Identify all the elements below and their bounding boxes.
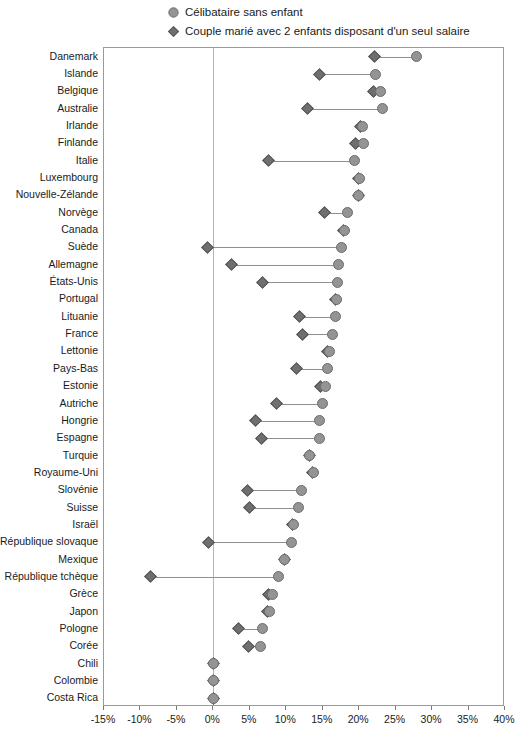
marker-celibataire[interactable] xyxy=(304,450,315,461)
legend-entry-couple-marie: Couple marié avec 2 enfants disposant d'… xyxy=(168,24,470,38)
marker-celibataire[interactable] xyxy=(377,103,388,114)
category-label: Nouvelle-Zélande xyxy=(0,188,98,200)
marker-celibataire[interactable] xyxy=(330,311,341,322)
x-axis-tick xyxy=(212,706,213,710)
connector-line xyxy=(208,247,342,248)
marker-celibataire[interactable] xyxy=(327,329,338,340)
category-label: Islande xyxy=(0,67,98,79)
marker-celibataire[interactable] xyxy=(308,467,319,478)
category-label: Israël xyxy=(0,518,98,530)
marker-celibataire[interactable] xyxy=(322,363,333,374)
marker-celibataire[interactable] xyxy=(336,242,347,253)
marker-celibataire[interactable] xyxy=(358,138,369,149)
marker-celibataire[interactable] xyxy=(296,485,307,496)
marker-celibataire[interactable] xyxy=(279,554,290,565)
x-axis-tick-label: 25% xyxy=(384,713,405,726)
x-axis-tick xyxy=(176,706,177,710)
zero-reference-line xyxy=(213,48,214,705)
marker-celibataire[interactable] xyxy=(357,121,368,132)
marker-celibataire[interactable] xyxy=(286,537,297,548)
x-axis-tick-label: 15% xyxy=(311,713,332,726)
marker-celibataire[interactable] xyxy=(257,623,268,634)
marker-couple-marie[interactable] xyxy=(256,276,269,289)
marker-couple-marie[interactable] xyxy=(290,362,303,375)
marker-couple-marie[interactable] xyxy=(270,397,283,410)
category-label: Allemagne xyxy=(0,258,98,270)
marker-couple-marie[interactable] xyxy=(255,432,268,445)
marker-couple-marie[interactable] xyxy=(144,571,157,584)
marker-celibataire[interactable] xyxy=(208,675,219,686)
marker-celibataire[interactable] xyxy=(264,606,275,617)
marker-celibataire[interactable] xyxy=(288,519,299,530)
x-axis-tick-label: 0% xyxy=(205,713,220,726)
category-label: Lituanie xyxy=(0,310,98,322)
connector-line xyxy=(374,57,416,58)
marker-couple-marie[interactable] xyxy=(225,258,238,271)
marker-celibataire[interactable] xyxy=(411,51,422,62)
marker-couple-marie[interactable] xyxy=(296,328,309,341)
connector-line xyxy=(269,161,355,162)
marker-couple-marie[interactable] xyxy=(201,241,214,254)
connector-line xyxy=(261,438,319,439)
connector-line xyxy=(256,421,320,422)
marker-celibataire[interactable] xyxy=(324,346,335,357)
marker-couple-marie[interactable] xyxy=(319,206,332,219)
category-label: Estonie xyxy=(0,379,98,391)
category-label: Autriche xyxy=(0,397,98,409)
x-axis-tick xyxy=(322,706,323,710)
category-label: Chili xyxy=(0,657,98,669)
marker-celibataire[interactable] xyxy=(320,381,331,392)
marker-celibataire[interactable] xyxy=(208,658,219,669)
marker-couple-marie[interactable] xyxy=(262,154,275,167)
category-label: Pays-Bas xyxy=(0,362,98,374)
plot-area xyxy=(103,47,504,706)
category-label: Lettonie xyxy=(0,344,98,356)
x-axis-tick xyxy=(431,706,432,710)
marker-couple-marie[interactable] xyxy=(301,102,314,115)
marker-couple-marie[interactable] xyxy=(313,68,326,81)
marker-couple-marie[interactable] xyxy=(368,50,381,63)
x-axis-tick-label: 20% xyxy=(348,713,369,726)
category-label: Costa Rica xyxy=(0,691,98,703)
category-label: Suède xyxy=(0,240,98,252)
category-label: Canada xyxy=(0,223,98,235)
marker-celibataire[interactable] xyxy=(273,571,284,582)
marker-celibataire[interactable] xyxy=(267,589,278,600)
x-axis-tick-label: -15% xyxy=(91,713,116,726)
connector-line xyxy=(249,508,299,509)
marker-couple-marie[interactable] xyxy=(241,484,254,497)
marker-celibataire[interactable] xyxy=(342,207,353,218)
marker-celibataire[interactable] xyxy=(354,173,365,184)
x-axis-tick-label: 5% xyxy=(241,713,256,726)
marker-celibataire[interactable] xyxy=(317,398,328,409)
marker-celibataire[interactable] xyxy=(208,693,219,704)
x-axis-tick-label: -5% xyxy=(167,713,186,726)
marker-celibataire[interactable] xyxy=(255,641,266,652)
marker-couple-marie[interactable] xyxy=(293,310,306,323)
marker-celibataire[interactable] xyxy=(293,502,304,513)
category-label: Hongrie xyxy=(0,414,98,426)
connector-line xyxy=(262,282,337,283)
dumbbell-chart: Célibataire sans enfant Couple marié ave… xyxy=(0,0,531,739)
marker-couple-marie[interactable] xyxy=(243,501,256,514)
x-axis-tick xyxy=(504,706,505,710)
category-label: Japon xyxy=(0,605,98,617)
marker-couple-marie[interactable] xyxy=(233,623,246,636)
marker-celibataire[interactable] xyxy=(332,277,343,288)
marker-celibataire[interactable] xyxy=(339,225,350,236)
marker-celibataire[interactable] xyxy=(333,259,344,270)
x-axis-tick xyxy=(285,706,286,710)
category-label: Pologne xyxy=(0,622,98,634)
marker-celibataire[interactable] xyxy=(370,69,381,80)
marker-couple-marie[interactable] xyxy=(249,414,262,427)
connector-line xyxy=(209,542,291,543)
marker-couple-marie[interactable] xyxy=(242,640,255,653)
legend-label-celibataire: Célibataire sans enfant xyxy=(185,5,303,19)
marker-celibataire[interactable] xyxy=(331,294,342,305)
marker-celibataire[interactable] xyxy=(349,155,360,166)
marker-celibataire[interactable] xyxy=(314,433,325,444)
marker-celibataire[interactable] xyxy=(375,86,386,97)
marker-celibataire[interactable] xyxy=(353,190,364,201)
category-label: Finlande xyxy=(0,136,98,148)
marker-celibataire[interactable] xyxy=(314,415,325,426)
